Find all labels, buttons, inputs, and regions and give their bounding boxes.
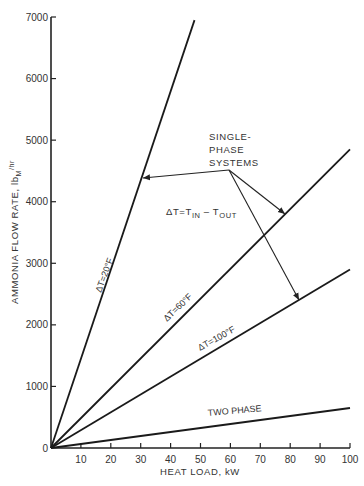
delta-t-sub-in: IN	[192, 211, 201, 220]
y-tick-label: 1000	[26, 381, 49, 392]
series-line-0	[51, 20, 195, 448]
y-axis-title-main: AMMONIA FLOW RATE, lb	[9, 176, 20, 304]
x-tick-label: 70	[255, 454, 267, 465]
x-tick-label: 90	[315, 454, 327, 465]
delta-t-part-a: ΔT=T	[166, 206, 192, 217]
axes: 01000200030004000500060007000 1020304050…	[26, 12, 359, 466]
series-line-2	[51, 269, 350, 448]
annotation-line-3: SYSTEMS	[209, 157, 259, 168]
x-tick-label: 30	[135, 454, 147, 465]
x-ticks: 102030405060708090100	[75, 443, 358, 465]
y-tick-label: 4000	[26, 196, 49, 207]
series-label-dt20: ΔT=20°F	[93, 256, 115, 294]
x-tick-label: 50	[195, 454, 207, 465]
x-axis-title: HEAT LOAD, kW	[160, 466, 240, 477]
y-tick-label: 2000	[26, 319, 49, 330]
x-tick-label: 80	[285, 454, 297, 465]
y-tick-label: 3000	[26, 258, 49, 269]
series-lines	[51, 20, 350, 448]
series-line-3	[51, 408, 350, 448]
y-tick-label: 0	[42, 443, 48, 454]
annotation-line-2: PHASE	[209, 144, 244, 155]
arrow-to-dt60	[229, 170, 285, 214]
y-axis-title: AMMONIA FLOW RATE, lbM/hr	[8, 160, 22, 304]
x-tick-label: 40	[165, 454, 177, 465]
x-tick-label: 20	[105, 454, 117, 465]
x-tick-label: 10	[75, 454, 87, 465]
y-axis-title-tail: /hr	[8, 160, 15, 170]
ammonia-flow-chart: 01000200030004000500060007000 1020304050…	[0, 0, 364, 486]
y-tick-label: 5000	[26, 135, 49, 146]
series-line-1	[51, 149, 350, 448]
series-label-dt60: ΔT=60°F	[161, 291, 194, 323]
annotation-line-1: SINGLE-	[209, 131, 251, 142]
y-tick-label: 7000	[26, 12, 49, 23]
arrow-to-dt20	[143, 170, 229, 178]
x-tick-label: 60	[225, 454, 237, 465]
y-axis-title-sub: M	[15, 170, 22, 176]
series-label-two-phase: TWO PHASE	[207, 403, 262, 418]
y-tick-label: 6000	[26, 73, 49, 84]
delta-t-definition: ΔT=TIN – TOUT	[166, 206, 237, 220]
delta-t-part-b: – T	[201, 206, 220, 217]
delta-t-sub-out: OUT	[219, 211, 237, 220]
x-tick-label: 100	[342, 454, 359, 465]
arrow-to-dt100	[229, 170, 299, 300]
